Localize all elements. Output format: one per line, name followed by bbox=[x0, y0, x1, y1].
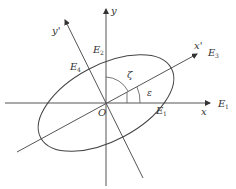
epsilon-angle-arc bbox=[137, 87, 140, 103]
e2-label: E 2 bbox=[92, 44, 104, 56]
e1-axis-label: E 1 bbox=[155, 105, 167, 117]
y-label: y bbox=[110, 5, 117, 16]
e4-label: E 4 bbox=[69, 61, 81, 73]
e3-label: E 3 bbox=[207, 47, 219, 59]
svg-text:3: 3 bbox=[215, 52, 219, 59]
svg-text:1: 1 bbox=[163, 110, 167, 117]
epsilon-label: ε bbox=[147, 88, 152, 98]
svg-text:2: 2 bbox=[100, 49, 104, 56]
svg-text:1: 1 bbox=[225, 103, 229, 110]
y-prime-label: y' bbox=[51, 25, 60, 36]
origin-label: O bbox=[98, 107, 106, 118]
y-prime-axis bbox=[65, 20, 143, 178]
zeta-angle-arc bbox=[106, 77, 128, 91]
e1-end-label: E 1 bbox=[217, 98, 229, 110]
svg-text:4: 4 bbox=[77, 66, 81, 73]
ellipse-axes-diagram: y y' x' x O ζ ε E 2 E 4 E 3 E 1 E 1 bbox=[0, 0, 236, 189]
x-label: x bbox=[201, 106, 207, 117]
zeta-label: ζ bbox=[127, 69, 133, 80]
x-prime-label: x' bbox=[194, 40, 202, 51]
